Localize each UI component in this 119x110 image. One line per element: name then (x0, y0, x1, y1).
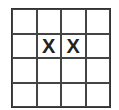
cell-3-1[interactable] (37, 83, 62, 108)
cell-0-0[interactable] (12, 9, 37, 34)
cell-0-3[interactable] (86, 9, 111, 34)
game-board: X X (11, 8, 111, 108)
cell-2-2[interactable] (61, 58, 86, 83)
cell-3-3[interactable] (86, 83, 111, 108)
cell-2-0[interactable] (12, 58, 37, 83)
cell-3-2[interactable] (61, 83, 86, 108)
cell-3-0[interactable] (12, 83, 37, 108)
cell-0-2[interactable] (61, 9, 86, 34)
cell-1-3[interactable] (86, 34, 111, 59)
cell-1-1[interactable]: X (37, 34, 62, 59)
cell-0-1[interactable] (37, 9, 62, 34)
cell-1-2[interactable]: X (61, 34, 86, 59)
cell-2-1[interactable] (37, 58, 62, 83)
cell-2-3[interactable] (86, 58, 111, 83)
cell-1-0[interactable] (12, 34, 37, 59)
